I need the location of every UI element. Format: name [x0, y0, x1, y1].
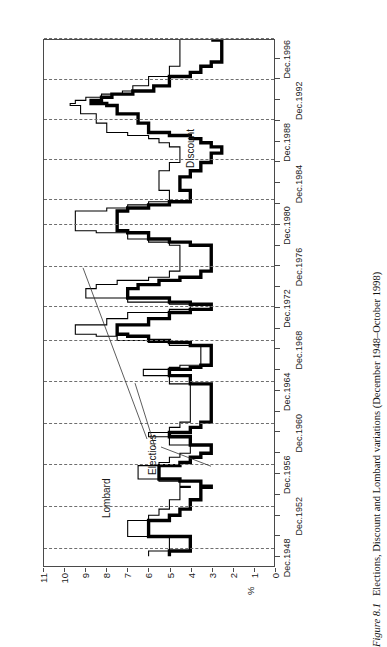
y-axis-tick-mark [254, 568, 255, 572]
y-axis-tick-mark [85, 568, 86, 572]
leader-line [83, 268, 147, 439]
x-axis-tick-mark [275, 494, 280, 495]
x-axis-tick-mark [275, 535, 280, 536]
x-axis-tick-mark [275, 411, 280, 412]
y-axis-tick-label: 1 [248, 568, 259, 623]
y-axis-tick-mark [106, 568, 107, 572]
x-axis-tick-mark [275, 369, 280, 370]
x-axis-tick-mark [275, 452, 280, 453]
x-axis-tick-mark [275, 141, 280, 142]
x-axis-tick-mark [275, 286, 280, 287]
figure-number: Figure 8.1 [371, 603, 382, 647]
y-axis-tick-label: 5 [164, 568, 175, 623]
y-axis-tick-mark [127, 568, 128, 572]
x-axis-tick-mark [275, 515, 280, 516]
y-axis-tick-label: 3 [206, 568, 217, 623]
x-axis-tick-mark [275, 265, 280, 266]
x-axis-tick-mark [275, 182, 280, 183]
x-axis-tick-label: Dec.1976 [294, 248, 304, 287]
x-axis-tick-label: Dec.1952 [294, 497, 304, 536]
y-axis-tick-mark [191, 568, 192, 572]
x-axis-tick-mark [275, 120, 280, 121]
x-axis-tick-mark [275, 224, 280, 225]
x-axis-tick-label: Dec.1948 [282, 539, 292, 578]
x-axis-tick-mark [275, 328, 280, 329]
x-axis-tick-mark [275, 431, 280, 432]
y-axis-tick-mark [43, 568, 44, 572]
x-axis-tick-mark [275, 78, 280, 79]
y-axis-tick-label: 0 [270, 568, 281, 623]
x-axis-tick-mark [275, 390, 280, 391]
y-axis-label: % [245, 587, 256, 595]
x-axis-tick-label: Dec.1960 [294, 414, 304, 453]
x-axis-tick-label: Dec.1980 [282, 206, 292, 245]
x-axis-tick-label: Dec.1956 [282, 456, 292, 495]
x-axis-tick-label: Dec.1972 [282, 289, 292, 328]
x-axis-tick-mark [275, 307, 280, 308]
x-axis-tick-label: Dec.1984 [294, 165, 304, 204]
x-axis-tick-label: Dec.1988 [282, 123, 292, 162]
x-axis-tick-label: Dec.1964 [282, 372, 292, 411]
y-axis-tick-mark [64, 568, 65, 572]
x-axis-tick-label: Dec.1968 [294, 331, 304, 370]
y-axis-tick-mark [170, 568, 171, 572]
y-axis-tick-mark [212, 568, 213, 572]
elections-leader-lines [43, 39, 275, 567]
x-axis-tick-mark [275, 556, 280, 557]
y-axis-tick-mark [233, 568, 234, 572]
x-axis-tick-mark [275, 58, 280, 59]
x-axis-tick-mark [275, 473, 280, 474]
y-axis-tick-label: 8 [101, 568, 112, 623]
y-axis-tick-label: 11 [38, 568, 49, 623]
x-axis-tick-mark [275, 161, 280, 162]
leader-line [161, 447, 211, 466]
y-axis-tick-label: 9 [80, 568, 91, 623]
y-axis-tick-label: 10 [59, 568, 70, 623]
x-axis-tick-mark [275, 245, 280, 246]
y-axis-tick-label: 7 [122, 568, 133, 623]
y-axis-tick-label: 4 [185, 568, 196, 623]
chart-stage: 01234567891011Dec.1948Dec.1952Dec.1956De… [35, 23, 335, 623]
x-axis-tick-mark [275, 203, 280, 204]
y-axis-tick-label: 6 [143, 568, 154, 623]
y-axis-tick-label: 2 [227, 568, 238, 623]
figure-caption: Figure 8.1 Elections, Discount and Lomba… [362, 0, 387, 647]
x-axis-tick-mark [275, 99, 280, 100]
x-axis-tick-label: Dec.1992 [294, 82, 304, 121]
y-axis-tick-mark [148, 568, 149, 572]
x-axis-tick-label: Dec.1996 [282, 40, 292, 79]
y-axis-tick-mark [275, 568, 276, 572]
x-axis-tick-mark [275, 348, 280, 349]
figure-caption-text: Elections, Discount and Lombard variatio… [371, 272, 382, 596]
